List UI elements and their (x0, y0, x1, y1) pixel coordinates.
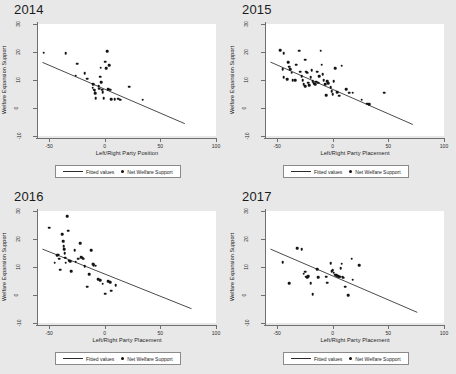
data-point (94, 92, 97, 95)
data-point (347, 294, 350, 297)
data-point (110, 98, 113, 101)
fitted-line-icon (63, 358, 83, 359)
y-tick (261, 211, 265, 212)
data-point (90, 249, 93, 252)
panel-title: 2014 (14, 3, 44, 17)
data-point (318, 75, 321, 78)
data-point (283, 76, 286, 79)
x-tick (388, 325, 389, 329)
data-point (281, 68, 284, 71)
plot-region: 3020100-10-50050100Welfare Expansion Sup… (5, 207, 223, 347)
y-tick (261, 295, 265, 296)
data-point (110, 289, 113, 292)
y-axis-label: Welfare Expansion Support (1, 46, 7, 114)
y-axis-line (265, 209, 266, 325)
data-point (326, 281, 329, 284)
x-tick-label: -50 (46, 143, 53, 149)
data-point (113, 98, 116, 101)
data-point (141, 98, 144, 101)
y-tick-label: 30 (243, 208, 249, 214)
y-tick-label: 10 (243, 77, 249, 83)
y-tick (33, 323, 37, 324)
legend-item-fitted: Fitted values (291, 356, 342, 362)
x-tick (444, 138, 445, 142)
x-tick-label: 50 (158, 330, 164, 336)
data-point (304, 85, 307, 88)
panel-title: 2017 (242, 190, 272, 204)
data-point (108, 64, 111, 67)
y-tick (261, 24, 265, 25)
data-point (287, 61, 290, 64)
data-point (340, 64, 343, 67)
x-axis-label: Left/Right Party Placement (92, 337, 161, 343)
data-point (301, 79, 304, 82)
y-tick-label: 0 (13, 107, 19, 110)
data-point (348, 91, 351, 94)
data-point (350, 257, 353, 260)
data-point (95, 265, 98, 268)
y-tick-label: 0 (13, 294, 19, 297)
data-point (296, 247, 299, 250)
data-point (311, 293, 314, 296)
data-point (102, 97, 105, 100)
y-axis-label: Welfare Expansion Support (229, 46, 235, 114)
y-tick-label: 10 (15, 264, 21, 270)
y-tick (261, 239, 265, 240)
x-tick-label: 100 (440, 143, 448, 149)
data-point (70, 270, 73, 273)
fitted-line-icon (291, 358, 311, 359)
x-tick (160, 138, 161, 142)
legend-label-points: Net Welfare Support (127, 169, 172, 175)
data-point (99, 279, 102, 282)
data-point (290, 71, 293, 74)
data-point (82, 258, 85, 261)
plot-region: 3020100-10-50050100Welfare Expansion Sup… (233, 207, 451, 347)
scatter-dot-icon (121, 357, 124, 360)
data-point (100, 66, 103, 69)
data-point (310, 69, 313, 72)
data-point (289, 68, 292, 71)
chart-panel-2016: 20163020100-10-50050100Welfare Expansion… (0, 187, 228, 374)
x-tick-label: 0 (103, 143, 106, 149)
data-point (329, 262, 332, 265)
data-point (321, 73, 324, 76)
data-point (104, 60, 107, 63)
data-point (57, 253, 60, 256)
legend-label-points: Net Welfare Support (355, 356, 400, 362)
x-tick-label: 50 (158, 143, 164, 149)
x-tick (277, 325, 278, 329)
y-tick-label: 20 (15, 236, 21, 242)
y-tick-label: -10 (16, 319, 22, 326)
x-tick-label: 100 (212, 143, 220, 149)
x-tick (216, 138, 217, 142)
data-point (83, 72, 86, 75)
data-point (309, 282, 312, 285)
y-axis-line (37, 22, 38, 138)
x-tick-label: 0 (331, 330, 334, 336)
data-point (62, 240, 65, 243)
y-tick-label: 10 (15, 77, 21, 83)
data-point (75, 260, 78, 263)
data-point (383, 91, 386, 94)
y-tick-label: 20 (15, 49, 21, 55)
data-point (299, 70, 302, 73)
data-point (358, 264, 361, 267)
data-point (340, 262, 343, 265)
legend-label-fitted: Fitted values (86, 356, 114, 362)
data-point (307, 275, 310, 278)
fitted-values-line (38, 211, 216, 323)
y-tick-label: 10 (243, 264, 249, 270)
chart-panel-2014: 20143020100-10-50050100Welfare Expansion… (0, 0, 228, 187)
data-point (304, 270, 307, 273)
data-point (345, 88, 348, 91)
plot-region: 3020100-10-50050100Welfare Expansion Sup… (233, 20, 451, 160)
plot-area (266, 24, 444, 136)
data-point (339, 267, 342, 270)
panel-title: 2015 (242, 3, 272, 17)
x-axis-line (36, 138, 217, 139)
x-tick-label: 0 (103, 330, 106, 336)
data-point (75, 75, 78, 78)
data-point (101, 91, 104, 94)
x-tick (388, 138, 389, 142)
data-point (100, 81, 103, 84)
